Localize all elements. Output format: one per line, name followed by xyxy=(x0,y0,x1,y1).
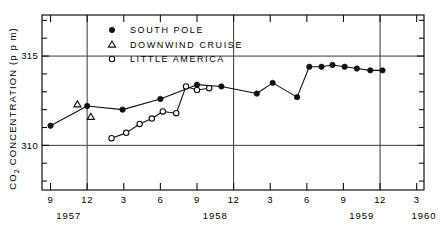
data-point-0-0 xyxy=(48,123,53,128)
data-point-0-7 xyxy=(270,80,275,85)
x-tick-label-4: 9 xyxy=(194,194,200,205)
x-tick-label-7: 6 xyxy=(304,194,310,205)
data-point-0-4 xyxy=(194,82,199,87)
y-axis-title-text: CO2 CONCENTRATION (p p m) xyxy=(7,27,20,190)
y-axis-title: CO2 CONCENTRATION (p p m) xyxy=(7,27,20,190)
data-point-0-9 xyxy=(307,64,312,69)
data-point-0-3 xyxy=(158,96,163,101)
x-tick-label-10: 3 xyxy=(414,194,420,205)
data-point-0-6 xyxy=(254,91,259,96)
y-tick-label-310: 310 xyxy=(21,140,38,151)
y-axis-title-group: CO2 CONCENTRATION (p p m) xyxy=(7,27,20,190)
chart-canvas: 310315 91236912369123 1957195819591960 S… xyxy=(0,0,440,233)
data-point-0-2 xyxy=(120,107,125,112)
data-point-0-8 xyxy=(294,94,299,99)
legend-marker-open-circle-icon xyxy=(109,56,114,61)
data-point-2-0 xyxy=(109,136,114,141)
x-tick-label-1: 12 xyxy=(81,194,93,205)
x-tick-label-0: 9 xyxy=(48,194,54,205)
legend-label-0: SOUTH POLE xyxy=(130,25,204,35)
data-point-2-8 xyxy=(207,86,212,91)
data-point-0-5 xyxy=(219,84,224,89)
data-point-2-3 xyxy=(149,116,154,121)
legend-label-1: DOWNWIND CRUISE xyxy=(130,40,243,50)
data-point-0-14 xyxy=(368,68,373,73)
legend-marker-filled-circle-icon xyxy=(109,27,114,32)
x-tick-label-3: 6 xyxy=(157,194,163,205)
year-label-1959: 1959 xyxy=(349,210,374,221)
y-tick-label-315: 315 xyxy=(21,50,38,61)
legend-label-2: LITTLE AMERICA xyxy=(130,54,225,64)
co2-concentration-chart: 310315 91236912369123 1957195819591960 S… xyxy=(0,0,440,233)
data-point-0-10 xyxy=(319,64,324,69)
year-label-1957: 1957 xyxy=(56,210,81,221)
data-point-0-13 xyxy=(354,66,359,71)
data-point-0-1 xyxy=(84,103,89,108)
x-tick-label-9: 12 xyxy=(374,194,386,205)
data-point-2-5 xyxy=(174,111,179,116)
x-tick-label-5: 12 xyxy=(228,194,240,205)
data-point-2-1 xyxy=(124,130,129,135)
year-label-1960: 1960 xyxy=(411,210,436,221)
data-point-2-4 xyxy=(160,109,165,114)
x-tick-label-8: 9 xyxy=(341,194,347,205)
data-point-0-12 xyxy=(342,64,347,69)
data-point-2-7 xyxy=(194,87,199,92)
x-tick-label-2: 3 xyxy=(121,194,127,205)
x-tick-label-6: 3 xyxy=(267,194,273,205)
data-point-0-11 xyxy=(330,62,335,67)
data-point-2-2 xyxy=(137,121,142,126)
year-label-1958: 1958 xyxy=(203,210,228,221)
data-point-0-15 xyxy=(380,68,385,73)
data-point-2-6 xyxy=(183,84,188,89)
